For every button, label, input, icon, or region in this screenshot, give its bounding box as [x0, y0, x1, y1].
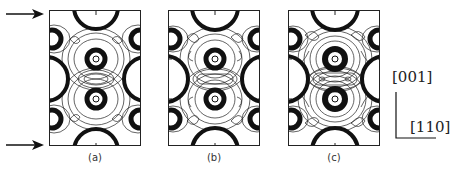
contour-map-a [50, 11, 141, 146]
axis-label-110: [110] [410, 118, 450, 136]
contour-map-c [289, 11, 380, 146]
top-arrow-icon [6, 8, 46, 20]
panel-label-c: (c) [314, 152, 354, 163]
contour-panel-b [168, 10, 260, 146]
panel-label-a: (a) [75, 152, 115, 163]
axis-label-001: [001] [392, 68, 432, 86]
contour-map-b [169, 11, 260, 146]
bottom-arrow-icon [6, 139, 46, 151]
contour-panel-c [288, 10, 380, 146]
panel-label-b: (b) [194, 152, 234, 163]
contour-panel-a [49, 10, 141, 146]
